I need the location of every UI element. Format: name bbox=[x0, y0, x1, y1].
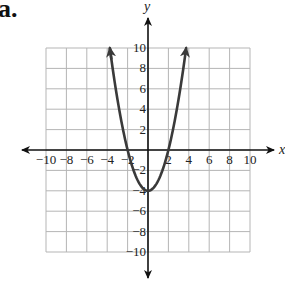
x-tick-label: 6 bbox=[206, 152, 213, 167]
y-tick-label: 8 bbox=[140, 60, 147, 75]
x-tick-label: −4 bbox=[100, 152, 114, 167]
y-tick-label: −6 bbox=[132, 203, 146, 218]
coordinate-plane: yx−10−8−6−4−2246810108642−2−4−6−8−10 bbox=[0, 0, 285, 281]
x-tick-label: −6 bbox=[80, 152, 94, 167]
x-tick-label: 8 bbox=[226, 152, 233, 167]
y-tick-label: −10 bbox=[126, 244, 146, 259]
y-tick-label: 10 bbox=[133, 40, 146, 55]
x-tick-label: −10 bbox=[36, 152, 56, 167]
x-tick-label: 10 bbox=[244, 152, 257, 167]
y-tick-label: −8 bbox=[132, 224, 146, 239]
y-tick-label: 2 bbox=[140, 122, 147, 137]
x-axis-label: x bbox=[278, 142, 285, 157]
y-axis-label: y bbox=[142, 0, 151, 14]
axes bbox=[22, 18, 274, 278]
y-tick-label: 4 bbox=[140, 101, 147, 116]
x-tick-label: −8 bbox=[59, 152, 73, 167]
parabola-left-arrow bbox=[110, 48, 112, 59]
y-tick-label: 6 bbox=[140, 81, 147, 96]
x-tick-label: 4 bbox=[186, 152, 193, 167]
